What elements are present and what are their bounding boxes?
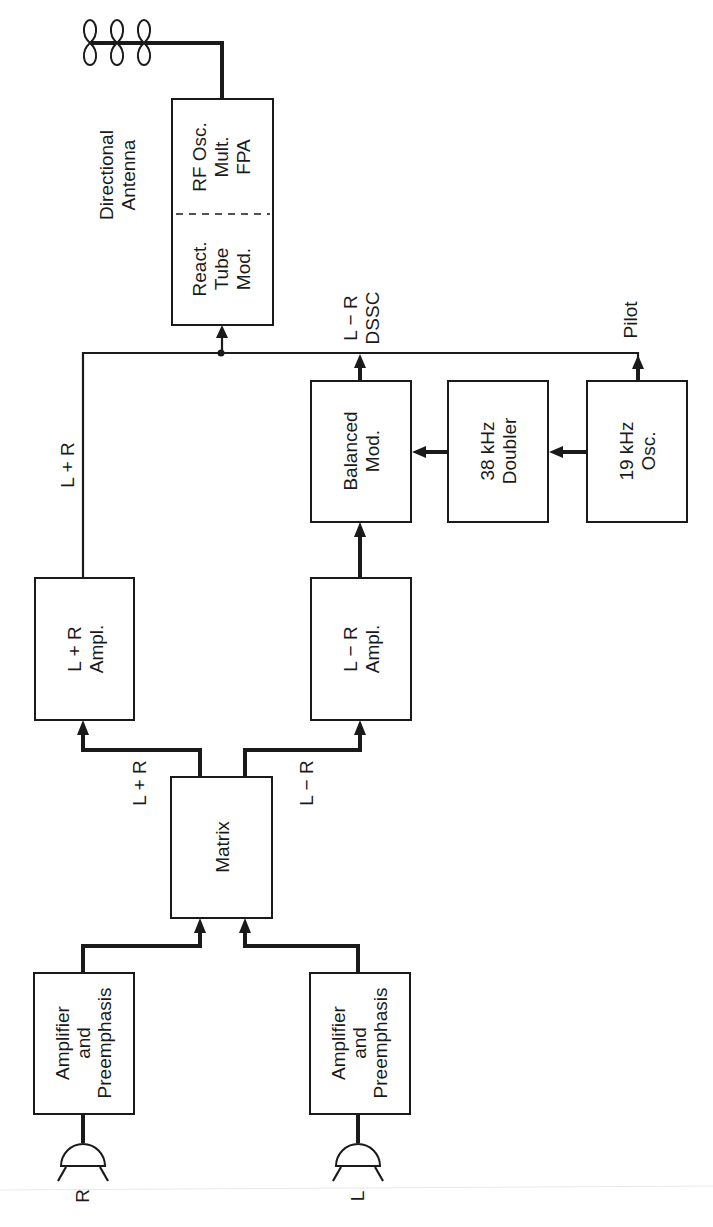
rf-upper-line3: FPA — [233, 139, 254, 175]
balanced-modulator-block: Balanced Mod. — [311, 381, 411, 522]
scan-artifact — [0, 1186, 713, 1190]
svg-text:R: R — [72, 1189, 93, 1203]
amp-l-line3: Preemphasis — [370, 988, 391, 1099]
matrix-diff-label: L − R — [296, 760, 317, 805]
arrow-up-icon — [354, 522, 366, 537]
rf-lower-line1: React. — [189, 242, 210, 297]
lpr-bus-label: L + R — [57, 442, 78, 487]
lmr-ampl-line2: Ampl. — [362, 625, 383, 674]
arrow-up-icon — [632, 355, 644, 369]
microphone-icon — [333, 1114, 383, 1181]
antenna-label-line2: Antenna — [118, 139, 139, 210]
arrow-up-icon — [194, 918, 206, 933]
matrix-line1: Matrix — [212, 821, 233, 873]
svg-text:L − R: L − R — [296, 760, 317, 805]
lmr-ampl-line1: L − R — [340, 626, 361, 671]
antenna-label: Directional Antenna — [96, 130, 139, 220]
arrow-left-icon — [412, 446, 426, 458]
svg-text:L: L — [347, 1191, 368, 1202]
lpr-ampl-line2: Ampl. — [86, 625, 107, 674]
microphone-icon — [58, 1114, 108, 1181]
balanced-mod-line1: Balanced — [340, 411, 361, 490]
rf-lower-line3: Mod. — [233, 248, 254, 290]
svg-text:Pilot: Pilot — [620, 301, 641, 339]
rf-upper-line1: RF Osc. — [189, 122, 210, 192]
lmr-dssc-label: L − R DSSC — [340, 292, 383, 345]
matrix-block: Matrix — [171, 777, 272, 918]
doubler-line1: 38 kHz — [477, 421, 498, 480]
directional-antenna-icon — [84, 20, 222, 99]
arrow-up-icon — [354, 354, 366, 368]
amp-r-line2: and — [73, 1027, 94, 1059]
balanced-mod-line2: Mod. — [362, 430, 383, 472]
arrow-up-icon — [239, 918, 251, 933]
doubler-line2: Doubler — [499, 417, 520, 484]
antenna-label-line1: Directional — [96, 130, 117, 220]
fm-stereo-block-diagram: Directional Antenna RF Osc. Mult. FPA Re… — [0, 0, 713, 1227]
rf-modulator-block: RF Osc. Mult. FPA React. Tube Mod. — [172, 99, 273, 325]
doubler-38khz-block: 38 kHz Doubler — [448, 381, 548, 522]
left-mic-label: L — [347, 1191, 368, 1202]
matrix-sum-label: L + R — [129, 760, 150, 805]
osc19-line2: Osc. — [638, 431, 659, 470]
osc19-line1: 19 kHz — [616, 421, 637, 480]
right-mic-label: R — [72, 1189, 93, 1203]
svg-text:L + R: L + R — [129, 760, 150, 805]
lmr-dssc-line1: L − R — [340, 295, 361, 340]
lmr-dssc-line2: DSSC — [362, 292, 383, 345]
amp-preemphasis-left-block: Amplifier and Preemphasis — [310, 973, 410, 1114]
arrow-left-icon — [549, 446, 563, 458]
amp-r-line3: Preemphasis — [94, 988, 115, 1099]
amp-r-line1: Amplifier — [52, 1005, 73, 1080]
lmr-amplifier-block: L − R Ampl. — [311, 578, 411, 720]
svg-text:L + R: L + R — [57, 442, 78, 487]
junction-dot — [218, 350, 225, 357]
rf-upper-line2: Mult. — [211, 136, 232, 177]
pilot-label: Pilot — [620, 301, 641, 339]
lpr-ampl-line1: L + R — [64, 626, 85, 671]
oscillator-19khz-block: 19 kHz Osc. — [587, 381, 687, 522]
arrow-up-icon — [354, 720, 366, 735]
arrow-up-icon — [216, 325, 228, 338]
amp-preemphasis-right-block: Amplifier and Preemphasis — [34, 973, 134, 1114]
arrow-up-icon — [77, 720, 89, 735]
amp-l-line1: Amplifier — [328, 1005, 349, 1080]
amp-l-line2: and — [349, 1027, 370, 1059]
rf-lower-line2: Tube — [211, 248, 232, 291]
lpr-amplifier-block: L + R Ampl. — [35, 578, 134, 720]
